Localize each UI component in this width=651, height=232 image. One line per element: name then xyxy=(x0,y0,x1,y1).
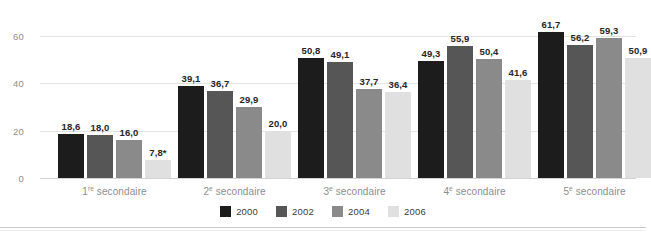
bar-value-label: 16,0 xyxy=(120,127,139,138)
bar[interactable] xyxy=(298,58,324,178)
bar[interactable] xyxy=(625,58,651,178)
bar-value-label: 56,2 xyxy=(571,32,590,43)
bar-value-label: 41,6 xyxy=(509,67,528,78)
bar-slot: 49,1 xyxy=(327,22,353,178)
bar[interactable] xyxy=(327,62,353,178)
bar-value-label: 18,6 xyxy=(62,121,81,132)
bar[interactable] xyxy=(596,38,622,178)
legend-label: 2004 xyxy=(348,206,370,217)
bar[interactable] xyxy=(87,135,113,178)
bar-value-label: 59,3 xyxy=(600,25,619,36)
legend-label: 2006 xyxy=(404,206,426,217)
legend-item[interactable]: 2000 xyxy=(220,206,258,217)
bar[interactable] xyxy=(178,86,204,178)
bar[interactable] xyxy=(476,59,502,178)
bar-value-label: 36,7 xyxy=(211,78,230,89)
bar-value-label: 50,8 xyxy=(302,45,321,56)
bar-value-label: 49,1 xyxy=(331,49,350,60)
legend-swatch-icon xyxy=(332,206,343,217)
footer-divider-secondary xyxy=(0,230,646,231)
bar-value-label: 29,9 xyxy=(240,94,259,105)
bar-slot: 36,4 xyxy=(385,22,411,178)
bar-slot: 7,8* xyxy=(145,22,171,178)
bar[interactable] xyxy=(356,89,382,178)
bar[interactable] xyxy=(418,61,444,178)
y-axis-tick-40: 40 xyxy=(0,78,24,89)
bar-group: 50,849,137,736,4 xyxy=(298,22,411,178)
legend-item[interactable]: 2004 xyxy=(332,206,370,217)
bar-slot: 49,3 xyxy=(418,22,444,178)
chart-legend: 2000200220042006 xyxy=(0,206,646,217)
bar-value-label: 50,9 xyxy=(629,45,648,56)
bar-slot: 20,0 xyxy=(265,22,291,178)
bar-value-label: 18,0 xyxy=(91,122,110,133)
y-axis-tick-60: 60 xyxy=(0,31,24,42)
bar[interactable] xyxy=(236,107,262,178)
plot-area: 0204060 18,618,016,07,8*39,136,729,920,0… xyxy=(40,22,636,178)
bar-slot: 56,2 xyxy=(567,22,593,178)
bar-value-label: 7,8* xyxy=(149,147,166,158)
category-label: 4e secondaire xyxy=(443,186,505,197)
legend-label: 2002 xyxy=(292,206,314,217)
bar-slot: 50,4 xyxy=(476,22,502,178)
bar[interactable] xyxy=(385,92,411,178)
legend-item[interactable]: 2002 xyxy=(276,206,314,217)
bar-slot: 50,8 xyxy=(298,22,324,178)
bar-slot: 41,6 xyxy=(505,22,531,178)
footer-divider xyxy=(0,227,646,228)
bar-slot: 18,6 xyxy=(58,22,84,178)
bar[interactable] xyxy=(145,160,171,178)
bar-group: 39,136,729,920,0 xyxy=(178,22,291,178)
bar[interactable] xyxy=(538,32,564,178)
bar-group: 61,756,259,350,9 xyxy=(538,22,651,178)
bar[interactable] xyxy=(58,134,84,178)
legend-item[interactable]: 2006 xyxy=(388,206,426,217)
legend-label: 2000 xyxy=(236,206,258,217)
bar-value-label: 55,9 xyxy=(451,33,470,44)
bar-value-label: 39,1 xyxy=(182,73,201,84)
bar-slot: 55,9 xyxy=(447,22,473,178)
category-label: 2e secondaire xyxy=(203,186,265,197)
bar[interactable] xyxy=(207,91,233,178)
bar-slot: 50,9 xyxy=(625,22,651,178)
bar-slot: 39,1 xyxy=(178,22,204,178)
y-axis-tick-20: 20 xyxy=(0,125,24,136)
bar-slot: 59,3 xyxy=(596,22,622,178)
y-axis-tick-0: 0 xyxy=(0,173,24,184)
bar-group: 18,618,016,07,8* xyxy=(58,22,171,178)
gridline-0 xyxy=(40,178,636,179)
bar-slot: 61,7 xyxy=(538,22,564,178)
bar-value-label: 61,7 xyxy=(542,19,561,30)
bar-value-label: 50,4 xyxy=(480,46,499,57)
bar-slot: 37,7 xyxy=(356,22,382,178)
bar-slot: 29,9 xyxy=(236,22,262,178)
bar-value-label: 49,3 xyxy=(422,48,441,59)
category-label: 5e secondaire xyxy=(563,186,625,197)
bar[interactable] xyxy=(265,131,291,178)
bar-slot: 36,7 xyxy=(207,22,233,178)
bar-slot: 16,0 xyxy=(116,22,142,178)
category-label: 1re secondaire xyxy=(82,186,146,197)
bar-value-label: 37,7 xyxy=(360,76,379,87)
category-label: 3e secondaire xyxy=(323,186,385,197)
bar-value-label: 20,0 xyxy=(269,118,288,129)
legend-swatch-icon xyxy=(276,206,287,217)
bar[interactable] xyxy=(505,80,531,178)
bar[interactable] xyxy=(447,46,473,178)
bar[interactable] xyxy=(116,140,142,178)
legend-swatch-icon xyxy=(220,206,231,217)
bar-group: 49,355,950,441,6 xyxy=(418,22,531,178)
legend-swatch-icon xyxy=(388,206,399,217)
bar-value-label: 36,4 xyxy=(389,79,408,90)
bar[interactable] xyxy=(567,45,593,178)
bar-slot: 18,0 xyxy=(87,22,113,178)
